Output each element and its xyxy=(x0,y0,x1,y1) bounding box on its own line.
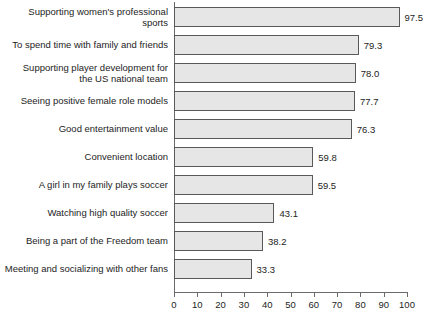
bar-track: 38.2 xyxy=(174,227,423,255)
bar-value-label: 78.0 xyxy=(361,68,380,79)
category-label: Good entertainment value xyxy=(0,115,168,143)
bar-row: Watching high quality soccer43.1 xyxy=(0,199,423,227)
x-axis-tick xyxy=(197,292,198,297)
category-label: Supporting player development for the US… xyxy=(0,59,168,87)
bar-row: To spend time with family and friends79.… xyxy=(0,31,423,59)
category-label: Convenient location xyxy=(0,143,168,171)
bar-track: 59.8 xyxy=(174,143,423,171)
x-axis-tick-label: 50 xyxy=(285,299,296,310)
category-label: Meeting and socializing with other fans xyxy=(0,255,168,283)
bar xyxy=(174,63,356,83)
bar-track: 77.7 xyxy=(174,87,423,115)
bar-row: Meeting and socializing with other fans3… xyxy=(0,255,423,283)
x-axis-tick xyxy=(337,292,338,297)
category-label: Seeing positive female role models xyxy=(0,87,168,115)
x-axis-tick xyxy=(267,292,268,297)
x-axis-tick-label: 60 xyxy=(309,299,320,310)
bar-value-label: 77.7 xyxy=(360,96,379,107)
bar-value-label: 59.5 xyxy=(318,180,337,191)
bar-row: Convenient location59.8 xyxy=(0,143,423,171)
bar xyxy=(174,119,352,139)
bar-track: 43.1 xyxy=(174,199,423,227)
category-label: To spend time with family and friends xyxy=(0,31,168,59)
bar-track: 33.3 xyxy=(174,255,423,283)
bar-value-label: 76.3 xyxy=(357,124,376,135)
bar-row: Good entertainment value76.3 xyxy=(0,115,423,143)
x-axis-tick-label: 10 xyxy=(192,299,203,310)
x-axis-tick xyxy=(174,292,175,297)
category-label: Being a part of the Freedom team xyxy=(0,227,168,255)
bar-row: Supporting player development for the US… xyxy=(0,59,423,87)
bar-value-label: 38.2 xyxy=(268,236,287,247)
horizontal-bar-chart: Supporting women's professional sports97… xyxy=(0,0,423,322)
bar xyxy=(174,147,313,167)
x-axis-tick xyxy=(221,292,222,297)
bar xyxy=(174,7,400,27)
x-axis-tick xyxy=(291,292,292,297)
bar xyxy=(174,259,252,279)
x-axis-tick xyxy=(360,292,361,297)
bar xyxy=(174,35,359,55)
x-axis-tick xyxy=(407,292,408,297)
bar-row: Supporting women's professional sports97… xyxy=(0,3,423,31)
x-axis-tick-label: 70 xyxy=(332,299,343,310)
bar xyxy=(174,203,274,223)
bar-value-label: 97.5 xyxy=(405,12,423,23)
x-axis-tick-label: 90 xyxy=(378,299,389,310)
bar-track: 76.3 xyxy=(174,115,423,143)
x-axis-tick xyxy=(384,292,385,297)
bar-row: A girl in my family plays soccer59.5 xyxy=(0,171,423,199)
x-axis-tick-label: 0 xyxy=(171,299,176,310)
x-axis-tick-label: 100 xyxy=(399,299,415,310)
bar-row: Seeing positive female role models77.7 xyxy=(0,87,423,115)
bar-value-label: 59.8 xyxy=(318,152,337,163)
bar-value-label: 79.3 xyxy=(364,40,383,51)
x-axis-tick-label: 80 xyxy=(355,299,366,310)
bar xyxy=(174,91,355,111)
bar-track: 78.0 xyxy=(174,59,423,87)
bar xyxy=(174,231,263,251)
bar-value-label: 43.1 xyxy=(279,208,298,219)
bar xyxy=(174,175,313,195)
x-axis-tick-label: 30 xyxy=(239,299,250,310)
category-label: A girl in my family plays soccer xyxy=(0,171,168,199)
bar-track: 59.5 xyxy=(174,171,423,199)
x-axis-tick xyxy=(244,292,245,297)
bar-value-label: 33.3 xyxy=(257,264,276,275)
x-axis-tick-label: 40 xyxy=(262,299,273,310)
bar-track: 79.3 xyxy=(174,31,423,59)
x-axis-tick xyxy=(314,292,315,297)
x-axis-tick-label: 20 xyxy=(215,299,226,310)
category-label: Watching high quality soccer xyxy=(0,199,168,227)
bar-row: Being a part of the Freedom team38.2 xyxy=(0,227,423,255)
bar-track: 97.5 xyxy=(174,3,423,31)
category-label: Supporting women's professional sports xyxy=(0,3,168,31)
